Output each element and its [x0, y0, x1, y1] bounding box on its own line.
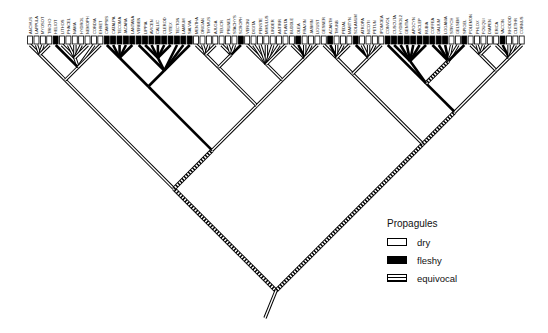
taxon-label: ASCLEP: [417, 18, 422, 34]
taxon-label: GALIUM: [436, 19, 441, 34]
tip-state-box: [149, 36, 154, 44]
taxon-label: CAMPSIS: [104, 16, 109, 34]
taxon-label: THUNB: [334, 20, 339, 34]
tip-state-box: [462, 36, 467, 44]
taxon-label: HYDROL: [79, 17, 84, 34]
tip-state-box: [513, 36, 518, 44]
tip-state-box: [340, 36, 345, 44]
taxon-label: RHODOD: [507, 16, 512, 34]
taxon-label: SALVIA: [187, 20, 192, 34]
taxon-label: MARTYN: [347, 17, 352, 34]
tip-state-box: [213, 36, 218, 44]
tip-state-box: [283, 36, 288, 44]
taxon-label: LINDER: [270, 19, 275, 34]
taxon-label: JACARA: [123, 18, 128, 34]
taxon-label: VERBEN: [136, 17, 141, 34]
taxon-label: APOCYN: [411, 17, 416, 34]
taxon-label: ACANTH: [328, 17, 333, 34]
tip-state-box: [430, 36, 435, 44]
tip-state-box: [443, 36, 448, 44]
taxon-label: GENTIA: [404, 19, 409, 34]
legend-label: dry: [417, 237, 430, 248]
taxon-label: ERICA: [494, 21, 499, 34]
tip-state-box: [353, 36, 358, 44]
taxon-label: OLEA: [296, 23, 301, 34]
tip-state-box: [404, 36, 409, 44]
tip-state-box: [392, 36, 397, 44]
tip-state-box: [232, 36, 237, 44]
tip-state-box: [347, 36, 352, 44]
taxon-label: TECTON: [175, 18, 180, 34]
taxon-label: PHLOX: [475, 20, 480, 34]
taxon-label: SCROPH: [238, 17, 243, 34]
tip-state-box: [162, 36, 167, 44]
taxon-label: DIGITA: [251, 21, 256, 34]
taxon-label: JASMIN: [309, 19, 314, 34]
taxon-label: LAPPULA: [34, 16, 39, 34]
taxon-label: NICOTI: [366, 20, 371, 34]
tip-state-box: [289, 36, 294, 44]
tip-state-box: [385, 36, 390, 44]
tip-state-box: [168, 36, 173, 44]
tip-state-box: [104, 36, 109, 44]
tip-state-box: [187, 36, 192, 44]
taxon-label: ORIGAN: [200, 18, 205, 34]
taxon-label: VERONI: [245, 19, 250, 34]
taxon-label: RUBIA: [424, 21, 429, 34]
tip-state-box: [47, 36, 52, 44]
taxon-label: SPIGEL: [462, 19, 467, 34]
taxon-label: AVICEN: [149, 19, 154, 34]
tip-state-box: [506, 36, 511, 44]
fleshy-swatch-icon: [387, 256, 407, 264]
taxon-label: LANTANA: [130, 16, 135, 34]
tip-state-box: [475, 36, 480, 44]
equivocal-swatch-icon: [387, 274, 407, 282]
taxon-label: NAMA: [72, 22, 77, 34]
taxon-label: COFFEA: [430, 17, 435, 34]
taxon-label: STRYCH: [449, 18, 454, 34]
tip-state-box: [277, 36, 282, 44]
taxon-label: SOLANUM: [353, 14, 358, 34]
taxon-label: TECOMA: [117, 17, 122, 34]
tip-state-box: [423, 36, 428, 44]
tip-state-box: [487, 36, 492, 44]
tip-state-box: [366, 36, 371, 44]
taxon-label: AJUGA: [213, 20, 218, 34]
legend-item-equivocal: equivocal: [387, 272, 507, 284]
tip-state-box: [34, 36, 39, 44]
tip-state-box: [411, 36, 416, 44]
taxon-label: CORNUS: [519, 16, 524, 34]
taxon-label: THYMUS: [206, 17, 211, 34]
taxon-label: MYOSOT: [40, 16, 45, 34]
tip-state-box: [117, 36, 122, 44]
taxon-label: HYDROL2: [398, 14, 403, 34]
tip-state-box: [85, 36, 90, 44]
tip-state-box: [264, 36, 269, 44]
tip-state-box: [315, 36, 320, 44]
tip-state-box: [494, 36, 499, 44]
taxon-label: LIGUST: [315, 19, 320, 34]
tip-state-box: [334, 36, 339, 44]
taxon-label: PHACEL: [66, 17, 71, 34]
tip-state-box: [296, 36, 301, 44]
taxon-label: IPOMOEA: [379, 15, 384, 34]
tip-state-box: [309, 36, 314, 44]
tip-state-box: [200, 36, 205, 44]
tip-state-box: [91, 36, 96, 44]
tip-state-box: [245, 36, 250, 44]
taxon-label: FRAXIN: [302, 19, 307, 34]
taxon-label: ANCHUS: [28, 17, 33, 34]
tip-state-box: [379, 36, 384, 44]
taxon-label: STACHYS: [232, 15, 237, 34]
taxon-label: EHRET: [98, 20, 103, 34]
legend-item-dry: dry: [387, 236, 507, 248]
taxon-label: VITEX: [168, 22, 173, 34]
tip-state-box: [66, 36, 71, 44]
tip-state-box: [270, 36, 275, 44]
taxon-label: CATALPA: [111, 16, 116, 34]
tip-state-box: [98, 36, 103, 44]
tip-state-box: [302, 36, 307, 44]
tip-state-box: [53, 36, 58, 44]
tip-state-box: [155, 36, 160, 44]
taxon-label: CLEROD: [162, 17, 167, 34]
